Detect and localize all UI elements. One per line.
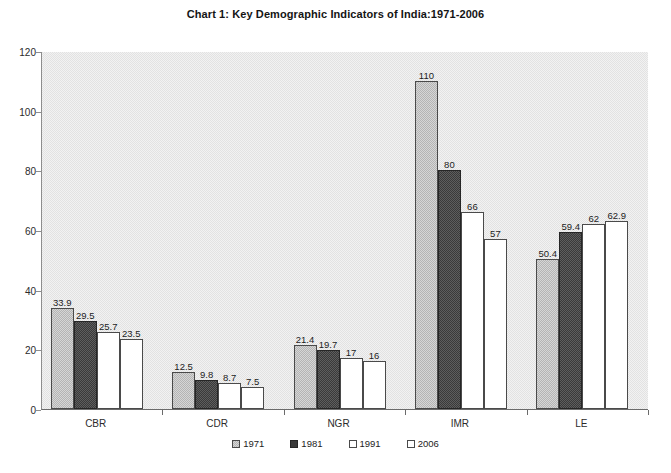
- y-axis-tick-label: 60: [10, 226, 36, 237]
- legend-swatch-icon: [349, 440, 357, 448]
- bar-ngr-2006: [363, 361, 386, 409]
- legend-item-2006[interactable]: 2006: [407, 438, 439, 449]
- bar-imr-1981: [438, 170, 461, 409]
- legend-swatch-icon: [232, 440, 240, 448]
- bar-cdr-2006: [241, 387, 264, 409]
- bar-ngr-1981: [317, 350, 340, 409]
- legend-label: 1981: [301, 438, 322, 449]
- x-axis-label-cdr: CDR: [206, 418, 228, 429]
- bar-cbr-2006: [120, 339, 143, 409]
- bar-value-label: 23.5: [122, 328, 141, 339]
- bar-cdr-1991: [218, 383, 241, 409]
- y-axis-tick-label: 40: [10, 285, 36, 296]
- bar-le-1991: [582, 224, 605, 409]
- bar-cbr-1971: [51, 308, 74, 409]
- bar-cbr-1991: [97, 332, 120, 409]
- x-axis-tick-mark: [162, 410, 163, 415]
- bar-imr-2006: [484, 239, 507, 409]
- y-axis-tick-mark: [36, 410, 41, 411]
- bar-value-label: 80: [444, 159, 455, 170]
- bar-value-label: 9.8: [200, 369, 213, 380]
- x-axis-tick-mark: [284, 410, 285, 415]
- x-axis-label-le: LE: [575, 418, 587, 429]
- bar-imr-1991: [461, 212, 484, 409]
- x-axis-label-cbr: CBR: [85, 418, 106, 429]
- chart-container: Chart 1: Key Demographic Indicators of I…: [0, 0, 671, 473]
- bar-le-1971: [536, 259, 559, 409]
- bar-value-label: 17: [346, 347, 357, 358]
- bar-value-label: 21.4: [296, 334, 315, 345]
- bar-ngr-1971: [294, 345, 317, 409]
- legend-swatch-icon: [407, 440, 415, 448]
- bar-value-label: 110: [419, 70, 434, 81]
- legend-item-1971[interactable]: 1971: [232, 438, 264, 449]
- bar-value-label: 19.7: [319, 339, 338, 350]
- bar-value-label: 12.5: [174, 361, 193, 372]
- bar-value-label: 25.7: [99, 321, 118, 332]
- x-axis-tick-mark: [648, 410, 649, 415]
- bar-cdr-1981: [195, 380, 218, 409]
- bar-value-label: 16: [369, 350, 380, 361]
- legend-swatch-icon: [290, 440, 298, 448]
- bar-le-1981: [559, 232, 582, 409]
- x-axis-label-imr: IMR: [451, 418, 469, 429]
- x-axis-tick-mark: [527, 410, 528, 415]
- chart-legend: 1971198119912006: [0, 438, 671, 449]
- x-axis-tick-mark: [405, 410, 406, 415]
- bar-le-2006: [605, 221, 628, 409]
- legend-item-1981[interactable]: 1981: [290, 438, 322, 449]
- bar-value-label: 33.9: [53, 297, 72, 308]
- bar-value-label: 50.4: [539, 248, 558, 259]
- legend-item-1991[interactable]: 1991: [349, 438, 381, 449]
- y-axis-tick-label: 0: [10, 405, 36, 416]
- y-axis-tick-label: 80: [10, 166, 36, 177]
- bar-value-label: 57: [490, 228, 501, 239]
- bar-imr-1971: [415, 81, 438, 409]
- bar-value-label: 62.9: [608, 210, 627, 221]
- bar-ngr-1991: [340, 358, 363, 409]
- x-axis-label-ngr: NGR: [327, 418, 349, 429]
- bar-value-label: 66: [467, 201, 478, 212]
- bar-value-label: 59.4: [562, 221, 581, 232]
- bar-cbr-1981: [74, 321, 97, 409]
- bar-value-label: 8.7: [223, 372, 236, 383]
- y-axis-tick-label: 120: [10, 47, 36, 58]
- legend-label: 1991: [360, 438, 381, 449]
- y-axis-tick-label: 20: [10, 345, 36, 356]
- y-axis-tick-label: 100: [10, 106, 36, 117]
- bar-value-label: 29.5: [76, 310, 95, 321]
- chart-title: Chart 1: Key Demographic Indicators of I…: [0, 8, 671, 20]
- bar-cdr-1971: [172, 372, 195, 409]
- bar-value-label: 62: [589, 213, 600, 224]
- bar-value-label: 7.5: [246, 376, 259, 387]
- legend-label: 2006: [418, 438, 439, 449]
- legend-label: 1971: [243, 438, 264, 449]
- plot-area: 33.929.525.723.512.59.88.77.521.419.7171…: [41, 52, 648, 410]
